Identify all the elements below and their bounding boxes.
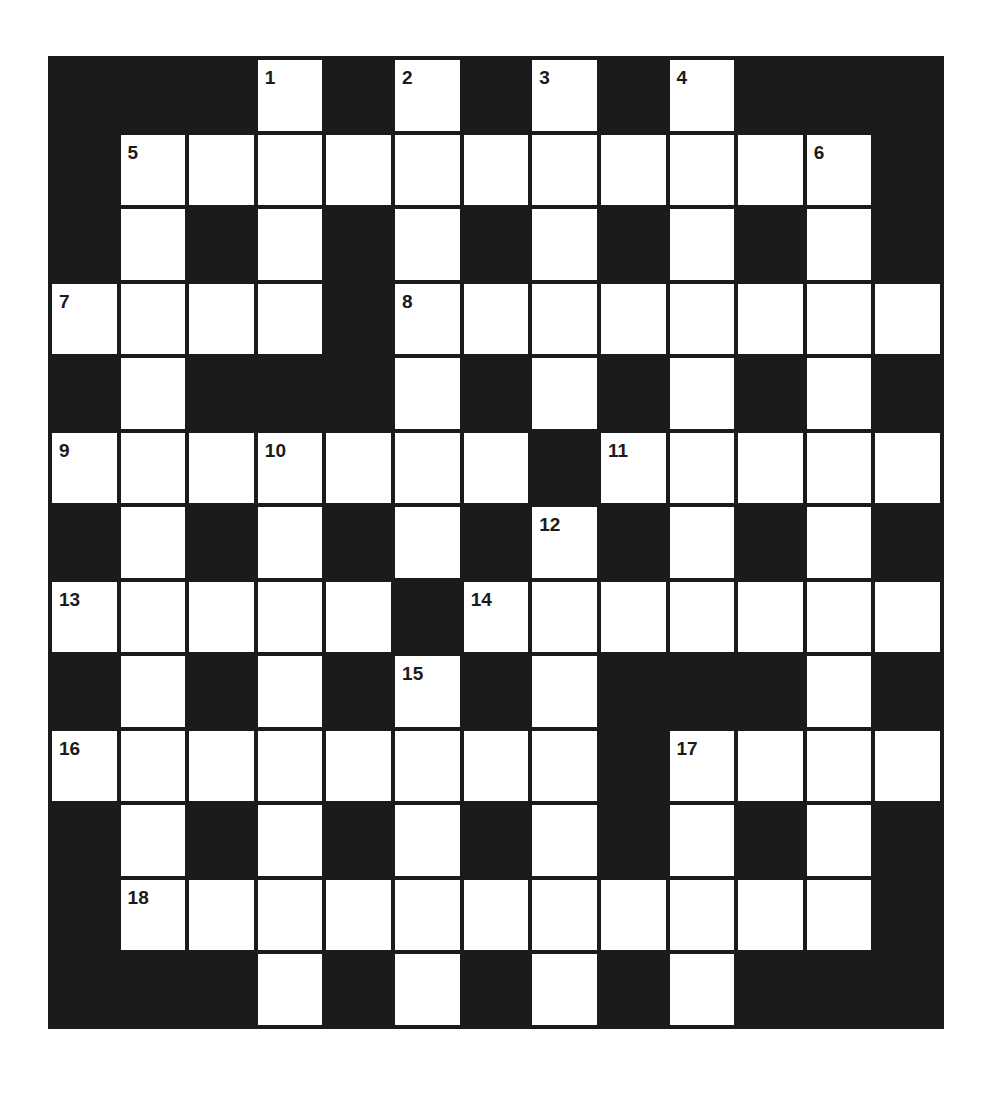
answer-cell[interactable] bbox=[670, 954, 735, 1025]
answer-cell[interactable] bbox=[738, 135, 803, 206]
answer-cell[interactable] bbox=[532, 582, 597, 653]
answer-cell[interactable] bbox=[121, 656, 186, 727]
answer-cell[interactable] bbox=[258, 135, 323, 206]
answer-cell[interactable]: 18 bbox=[121, 880, 186, 951]
answer-cell[interactable]: 15 bbox=[395, 656, 460, 727]
answer-cell[interactable]: 12 bbox=[532, 507, 597, 578]
answer-cell[interactable] bbox=[258, 582, 323, 653]
answer-cell[interactable]: 13 bbox=[52, 582, 117, 653]
answer-cell[interactable] bbox=[326, 433, 391, 504]
answer-cell[interactable] bbox=[189, 284, 254, 355]
answer-cell[interactable] bbox=[258, 880, 323, 951]
answer-cell[interactable]: 16 bbox=[52, 731, 117, 802]
answer-cell[interactable] bbox=[326, 582, 391, 653]
answer-cell[interactable] bbox=[875, 731, 940, 802]
answer-cell[interactable]: 7 bbox=[52, 284, 117, 355]
answer-cell[interactable] bbox=[807, 656, 872, 727]
answer-cell[interactable] bbox=[121, 582, 186, 653]
answer-cell[interactable] bbox=[395, 507, 460, 578]
answer-cell[interactable] bbox=[670, 433, 735, 504]
answer-cell[interactable]: 2 bbox=[395, 60, 460, 131]
answer-cell[interactable] bbox=[532, 731, 597, 802]
answer-cell[interactable] bbox=[738, 880, 803, 951]
answer-cell[interactable] bbox=[395, 358, 460, 429]
answer-cell[interactable] bbox=[532, 209, 597, 280]
answer-cell[interactable] bbox=[189, 582, 254, 653]
answer-cell[interactable] bbox=[807, 209, 872, 280]
answer-cell[interactable] bbox=[121, 507, 186, 578]
answer-cell[interactable] bbox=[807, 582, 872, 653]
answer-cell[interactable] bbox=[532, 135, 597, 206]
answer-cell[interactable] bbox=[258, 656, 323, 727]
answer-cell[interactable] bbox=[258, 507, 323, 578]
answer-cell[interactable]: 6 bbox=[807, 135, 872, 206]
answer-cell[interactable] bbox=[738, 731, 803, 802]
answer-cell[interactable]: 11 bbox=[601, 433, 666, 504]
answer-cell[interactable] bbox=[189, 731, 254, 802]
answer-cell[interactable] bbox=[464, 731, 529, 802]
answer-cell[interactable] bbox=[395, 135, 460, 206]
answer-cell[interactable]: 5 bbox=[121, 135, 186, 206]
answer-cell[interactable] bbox=[395, 433, 460, 504]
answer-cell[interactable] bbox=[395, 954, 460, 1025]
answer-cell[interactable] bbox=[258, 209, 323, 280]
answer-cell[interactable] bbox=[258, 284, 323, 355]
answer-cell[interactable] bbox=[121, 433, 186, 504]
answer-cell[interactable] bbox=[532, 805, 597, 876]
answer-cell[interactable] bbox=[670, 284, 735, 355]
answer-cell[interactable] bbox=[121, 284, 186, 355]
answer-cell[interactable] bbox=[464, 284, 529, 355]
answer-cell[interactable] bbox=[326, 135, 391, 206]
answer-cell[interactable]: 9 bbox=[52, 433, 117, 504]
answer-cell[interactable] bbox=[464, 433, 529, 504]
answer-cell[interactable] bbox=[738, 433, 803, 504]
answer-cell[interactable]: 8 bbox=[395, 284, 460, 355]
answer-cell[interactable] bbox=[395, 880, 460, 951]
answer-cell[interactable]: 1 bbox=[258, 60, 323, 131]
answer-cell[interactable] bbox=[601, 284, 666, 355]
answer-cell[interactable] bbox=[670, 507, 735, 578]
answer-cell[interactable] bbox=[395, 209, 460, 280]
answer-cell[interactable] bbox=[395, 805, 460, 876]
answer-cell[interactable] bbox=[258, 954, 323, 1025]
answer-cell[interactable] bbox=[670, 358, 735, 429]
answer-cell[interactable] bbox=[601, 582, 666, 653]
answer-cell[interactable]: 3 bbox=[532, 60, 597, 131]
answer-cell[interactable] bbox=[189, 433, 254, 504]
answer-cell[interactable] bbox=[601, 135, 666, 206]
answer-cell[interactable] bbox=[807, 507, 872, 578]
answer-cell[interactable] bbox=[807, 805, 872, 876]
answer-cell[interactable]: 14 bbox=[464, 582, 529, 653]
answer-cell[interactable]: 4 bbox=[670, 60, 735, 131]
answer-cell[interactable] bbox=[807, 284, 872, 355]
answer-cell[interactable] bbox=[875, 433, 940, 504]
answer-cell[interactable]: 17 bbox=[670, 731, 735, 802]
answer-cell[interactable] bbox=[532, 358, 597, 429]
answer-cell[interactable] bbox=[670, 880, 735, 951]
answer-cell[interactable] bbox=[326, 880, 391, 951]
answer-cell[interactable] bbox=[326, 731, 391, 802]
answer-cell[interactable] bbox=[258, 731, 323, 802]
answer-cell[interactable] bbox=[738, 284, 803, 355]
answer-cell[interactable] bbox=[258, 805, 323, 876]
answer-cell[interactable] bbox=[532, 954, 597, 1025]
answer-cell[interactable] bbox=[464, 135, 529, 206]
answer-cell[interactable] bbox=[121, 805, 186, 876]
answer-cell[interactable] bbox=[670, 135, 735, 206]
answer-cell[interactable] bbox=[738, 582, 803, 653]
answer-cell[interactable] bbox=[532, 880, 597, 951]
answer-cell[interactable] bbox=[189, 135, 254, 206]
answer-cell[interactable] bbox=[532, 656, 597, 727]
answer-cell[interactable] bbox=[395, 731, 460, 802]
answer-cell[interactable] bbox=[670, 209, 735, 280]
answer-cell[interactable] bbox=[807, 880, 872, 951]
answer-cell[interactable] bbox=[670, 805, 735, 876]
answer-cell[interactable] bbox=[807, 433, 872, 504]
answer-cell[interactable] bbox=[532, 284, 597, 355]
answer-cell[interactable]: 10 bbox=[258, 433, 323, 504]
answer-cell[interactable] bbox=[121, 209, 186, 280]
answer-cell[interactable] bbox=[807, 731, 872, 802]
answer-cell[interactable] bbox=[807, 358, 872, 429]
answer-cell[interactable] bbox=[875, 284, 940, 355]
answer-cell[interactable] bbox=[121, 731, 186, 802]
